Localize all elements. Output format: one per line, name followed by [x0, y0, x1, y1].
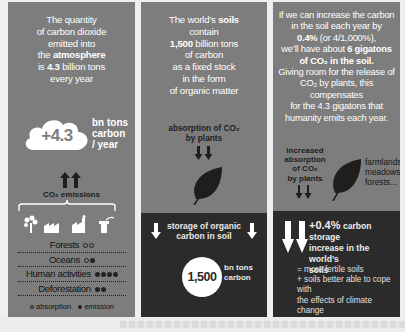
- intro-line: the atmosphere: [8, 49, 135, 61]
- intro-line: every year: [8, 73, 135, 85]
- unit-line: bn tons: [224, 263, 264, 273]
- soil-carbon-unit: bn tons carbon: [224, 263, 264, 282]
- cropped-text-ghost: [120, 321, 405, 328]
- unit-line: carbon: [224, 273, 264, 283]
- label-line: meadows,: [365, 167, 400, 177]
- emission-dot-icon: [90, 258, 95, 263]
- increased-absorption-label: increased absorption of CO₂ by plants: [279, 146, 331, 183]
- tree-icon: [24, 216, 38, 234]
- intro-fragment: The world’s: [169, 14, 218, 25]
- intro-fragment: we’ll have about: [281, 44, 347, 54]
- dot-legend: absorption emission: [8, 302, 135, 311]
- intro-fragment: billion tons: [60, 61, 105, 72]
- intro-line: 0.4% (or 4/1,000%),: [273, 33, 400, 44]
- intro-line: Giving room for the release of: [273, 67, 400, 78]
- intro-line: of carbon dioxide: [8, 26, 135, 38]
- intro-line: If we can increase the carbon: [273, 10, 400, 21]
- absorption-dot-icon: [30, 305, 34, 309]
- soil-carbon-value: 1,500: [182, 257, 222, 297]
- farmlands-label: farmlands, meadows, forests...: [365, 157, 400, 187]
- intro-emphasis: atmosphere: [53, 49, 105, 60]
- storage-of-organic-carbon-label: storage of organic carbon in soil: [163, 221, 245, 241]
- intro-fragment: the: [38, 49, 53, 60]
- down-arrow-icon: [151, 223, 161, 239]
- double-down-arrow-icon: [282, 221, 308, 253]
- intro-emphasis: 0.4%: [297, 33, 317, 43]
- intro-line: The quantity: [8, 14, 135, 26]
- intro-line: of CO₂ in the soil.: [273, 56, 400, 67]
- bottom-strip: [0, 317, 405, 332]
- source-dots: [94, 267, 118, 281]
- emission-source-icons: [22, 215, 122, 233]
- benefit-line: + soils better able to cope with: [297, 275, 397, 295]
- storage-percentage: +0.4%: [309, 219, 341, 231]
- intro-fragment: is: [38, 61, 47, 72]
- source-row-deforestation: Deforestation: [18, 282, 126, 297]
- storage-increase-section: +0.4% carbon storage increase in the wor…: [273, 211, 400, 317]
- source-label: Oceans: [49, 254, 80, 265]
- down-arrows-icon: [295, 185, 313, 199]
- atmosphere-intro-text: The quantity of carbon dioxide emitted i…: [8, 14, 135, 85]
- soils-intro-text: The world’s soils contain 1,500 billion …: [141, 14, 267, 97]
- benefit-line: the effects of climate change: [297, 296, 397, 316]
- intro-line: is 4.3 billion tons: [8, 61, 135, 73]
- unit-line: carbon: [92, 128, 132, 139]
- increase-intro-text: If we can increase the carbon in the soi…: [273, 10, 400, 124]
- chimney-icon: [99, 217, 114, 233]
- intro-line: CO₂ by plants, this compensates: [273, 78, 400, 101]
- label-line: absorption: [279, 155, 331, 164]
- emission-value: +4.3: [22, 126, 92, 146]
- unit-line: bn tons: [92, 117, 132, 128]
- industry-icon: [72, 215, 86, 233]
- emission-dot-icon: [95, 272, 100, 277]
- source-row-oceans: Oceans: [18, 253, 126, 268]
- down-arrow-icon: [247, 223, 257, 239]
- storage-line: +0.4% carbon storage: [309, 220, 397, 243]
- source-label: Human activities: [26, 268, 91, 279]
- source-row-forests: Forests: [18, 238, 126, 253]
- intro-line: of carbon: [141, 49, 267, 61]
- emission-dot-icon: [95, 287, 100, 292]
- emission-unit: bn tons carbon / year: [92, 117, 132, 150]
- intro-emphasis: soils: [218, 14, 239, 25]
- storage-line: increase in the world’s: [309, 243, 397, 265]
- panel-atmosphere: The quantity of carbon dioxide emitted i…: [8, 2, 135, 317]
- panel-four-per-thousand: If we can increase the carbon in the soi…: [273, 2, 400, 317]
- emission-dot-icon: [113, 272, 118, 277]
- emission-dot-icon: [101, 272, 106, 277]
- absorption-dot-icon: [83, 243, 88, 248]
- emission-dot-icon: [101, 287, 106, 292]
- intro-line: in the soil each year by: [273, 21, 400, 32]
- source-dots: [82, 238, 94, 252]
- down-arrows-icon: [194, 146, 214, 160]
- source-row-human-activities: Human activities: [18, 267, 126, 282]
- source-label: Deforestation: [38, 283, 91, 294]
- brace-icon: [17, 198, 117, 212]
- label-line: storage of organic: [163, 221, 245, 231]
- intro-line: for the 4.3 gigatons that: [273, 101, 400, 112]
- unit-line: / year: [92, 139, 132, 150]
- absorption-dot-icon: [84, 258, 89, 263]
- legend-absorption-label: absorption: [36, 302, 71, 311]
- absorption-by-plants-label: absorption of CO₂ by plants: [141, 124, 267, 143]
- intro-line: humanity emits each year.: [273, 113, 400, 124]
- source-dots: [83, 253, 95, 267]
- label-line: of CO₂: [279, 164, 331, 173]
- intro-line: as a fixed stock: [141, 61, 267, 73]
- factory-icon: [44, 223, 59, 233]
- intro-line: 1,500 billion tons: [141, 38, 267, 50]
- emission-dot-icon: [107, 272, 112, 277]
- emission-sources-list: Forests Oceans Human activities Deforest…: [18, 238, 126, 296]
- intro-fragment: billion tons: [193, 38, 238, 49]
- intro-line: of organic matter: [141, 85, 267, 97]
- intro-emphasis: 4.3: [47, 61, 60, 72]
- benefits-text: = more fertile soils + soils better able…: [297, 265, 397, 316]
- absorption-dot-icon: [89, 243, 94, 248]
- intro-emphasis: 1,500: [170, 38, 193, 49]
- up-arrows-icon: [59, 172, 85, 188]
- label-line: carbon in soil: [163, 231, 245, 241]
- intro-line: The world’s soils: [141, 14, 267, 26]
- intro-emphasis: 6 gigatons: [347, 44, 392, 54]
- source-dots: [94, 282, 106, 296]
- source-label: Forests: [50, 239, 80, 250]
